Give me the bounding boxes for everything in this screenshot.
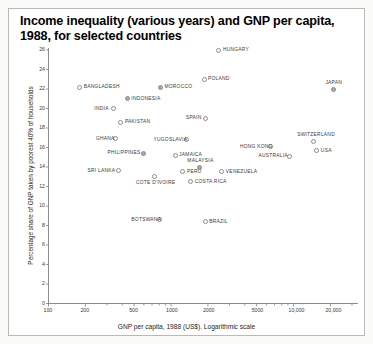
y-axis-label: Percentage share of GNP taken by poorest… [27,61,34,291]
x-axis-label: GNP per capita, 1988 (US$). Logarithmic … [0,323,373,330]
chart-figure: Income inequality (various years) and GN… [0,0,373,344]
chart-axes [0,0,373,344]
